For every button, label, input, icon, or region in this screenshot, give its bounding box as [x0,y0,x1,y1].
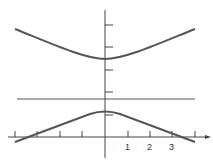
y-ticks [105,25,113,115]
chart: 1 2 3 [0,0,213,162]
x-label-2: 2 [147,142,152,152]
x-label-3: 3 [169,142,174,152]
x-label-1: 1 [125,142,130,152]
x-axis-arrow [205,135,211,139]
